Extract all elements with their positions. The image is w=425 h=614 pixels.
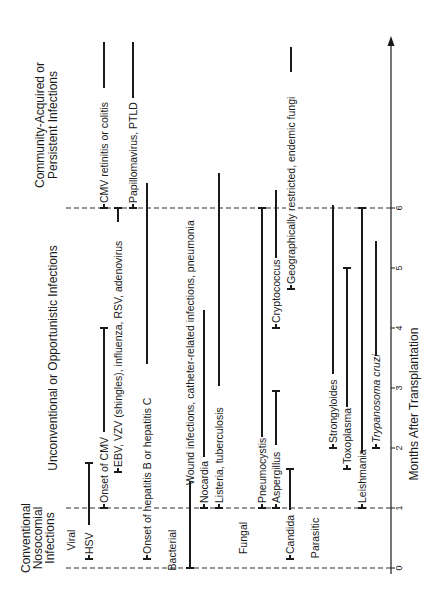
svg-text:Community-Acquired or: Community-Acquired or: [33, 62, 47, 188]
axis-arrow-icon: [388, 36, 395, 46]
label-trypanosoma: Trypanosoma cruzi: [370, 354, 382, 443]
label-hepatitis: Onset of hepatitis B or hepatitis C: [141, 397, 153, 554]
tick-3: 3: [394, 385, 404, 390]
label-cryptococcus: Cryptococcus: [270, 259, 282, 323]
timeline-svg: 0 1 2 3 4 5 6 Months After Transplantati…: [0, 0, 425, 614]
label-leishmania: Leishmania: [356, 449, 368, 503]
label-endemic-fungi: Geographically restricted, endemic fungi: [285, 97, 297, 284]
category-viral: Viral: [65, 530, 77, 551]
svg-text:Persistent Infections: Persistent Infections: [46, 71, 60, 179]
time-axis: [388, 36, 396, 574]
tick-2: 2: [394, 445, 404, 450]
label-nocardia: Nocardia: [198, 461, 210, 503]
label-candida: Candida: [284, 515, 296, 554]
tick-0: 0: [394, 565, 404, 570]
label-toxoplasma: Toxoplasma: [341, 408, 353, 464]
label-strongyloides: Strongyloides: [327, 379, 339, 443]
label-ebv-vzv: EBV, VZV (shingles), influenza, RSV, ade…: [112, 241, 124, 467]
category-parasitic: Parasitic: [309, 518, 321, 558]
tick-1: 1: [394, 505, 404, 510]
axis-tick-labels: 0 1 2 3 4 5 6: [394, 205, 404, 570]
tick-4: 4: [394, 325, 404, 330]
tick-6: 6: [394, 205, 404, 210]
svg-text:Infections: Infections: [43, 512, 57, 563]
bar-wound-infections: [186, 481, 194, 568]
label-hsv: HSV: [83, 532, 95, 554]
label-pneumocystis: Pneumocystis: [256, 438, 268, 503]
label-listeria: Listeria, tuberculosis: [213, 407, 225, 503]
period-header-conventional: Conventional Nosocomial Infections: [19, 503, 57, 573]
label-papillomavirus: Papillomavirus, PTLD: [127, 102, 139, 203]
infection-timeline-diagram: 0 1 2 3 4 5 6 Months After Transplantati…: [0, 0, 425, 614]
period-header-community: Community-Acquired or Persistent Infecti…: [33, 62, 60, 188]
label-cmv-retinitis: CMV retinitis or colitis: [98, 102, 110, 203]
period-header-unconventional: Unconventional or Opportunistic Infectio…: [46, 245, 60, 470]
infection-labels: HSV Onset of CMV EBV, VZV (shingles), in…: [83, 72, 382, 555]
axis-title: Months After Transplantation: [407, 328, 421, 481]
label-onset-cmv: Onset of CMV: [98, 437, 110, 503]
tick-5: 5: [394, 265, 404, 270]
label-aspergillus: Aspergillus: [270, 452, 282, 503]
label-wound-infections: Wound infections, catheter-related infec…: [184, 220, 196, 485]
category-fungal: Fungal: [237, 522, 249, 554]
category-bacterial: Bacterial: [166, 530, 178, 571]
